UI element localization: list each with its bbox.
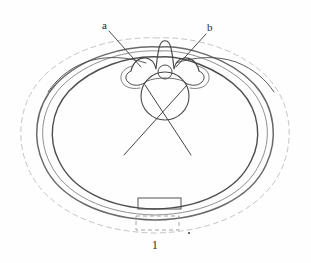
left-pedicle-connector xyxy=(147,78,165,81)
brace-middle-band xyxy=(43,51,268,215)
correction-force-line-left xyxy=(124,85,187,155)
label-a: a xyxy=(102,20,107,31)
anatomical-diagram xyxy=(0,0,311,263)
brace-inner-band xyxy=(52,57,257,209)
correction-force-lines xyxy=(124,85,191,155)
reference-dot xyxy=(188,232,190,234)
rib-cage-contour xyxy=(48,58,274,92)
right-transverse-process xyxy=(183,71,204,85)
leader-line-a xyxy=(109,31,141,67)
left-transverse-process xyxy=(126,71,147,85)
spinous-process xyxy=(131,41,199,71)
vertebra-group xyxy=(121,41,209,120)
correction-force-line-right xyxy=(145,85,191,155)
right-pedicle-connector xyxy=(165,78,183,81)
figure-container: a b 1 xyxy=(0,0,311,263)
anterior-pad-dashed xyxy=(136,216,179,230)
label-b: b xyxy=(207,22,213,33)
brace-outer-band xyxy=(37,47,274,220)
leader-line-b xyxy=(176,34,206,67)
label-pad-number: 1 xyxy=(152,240,158,252)
